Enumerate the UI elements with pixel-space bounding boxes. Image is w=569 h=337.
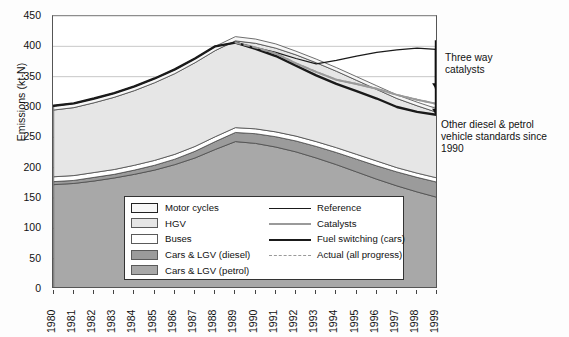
annotation-arrow-head-0 (432, 83, 437, 89)
legend-label: Cars & LGV (diesel) (165, 249, 250, 260)
x-tick-mark (113, 290, 114, 294)
legend-line-column: ReferenceCatalystsFuel switching (cars)A… (269, 200, 405, 262)
x-tick-label: 1987 (186, 310, 198, 333)
x-tick-label: 1986 (166, 310, 178, 333)
x-tick-label: 1998 (408, 310, 420, 333)
x-tick-mark (255, 290, 256, 294)
legend-line-sample (269, 208, 311, 209)
y-tick-label: 250 (0, 130, 46, 142)
legend-item-area[interactable]: Buses (131, 231, 250, 247)
legend-item-area[interactable]: Motor cycles (131, 200, 250, 216)
x-axis-ticks: 1980198119821983198419851986198719881989… (52, 290, 437, 337)
x-tick-label: 1985 (146, 310, 158, 333)
x-tick-label: 1997 (388, 310, 400, 333)
x-tick-label: 1991 (267, 310, 279, 333)
legend-swatch-icon (131, 203, 158, 213)
x-tick-mark (396, 290, 397, 294)
legend-label: Buses (165, 233, 192, 244)
legend-line-icon (269, 218, 311, 228)
x-tick-mark (133, 290, 134, 294)
x-tick-mark (376, 290, 377, 294)
x-tick-label: 1983 (105, 310, 117, 333)
x-tick-mark (356, 290, 357, 294)
y-tick-label: 50 (0, 252, 46, 264)
legend-line-icon (269, 234, 311, 244)
legend-swatch-icon (131, 265, 158, 275)
legend-label: Reference (317, 202, 361, 213)
legend-line-sample (269, 223, 311, 225)
x-tick-label: 1996 (368, 310, 380, 333)
x-tick-mark (174, 290, 175, 294)
legend-item-line[interactable]: Actual (all progress) (269, 247, 405, 263)
chart-figure: Emissions (kt-N) 05010015020025030035040… (0, 0, 569, 337)
x-tick-label: 1999 (428, 310, 440, 333)
x-tick-label: 1980 (45, 310, 57, 333)
legend-item-area[interactable]: Cars & LGV (diesel) (131, 247, 250, 263)
legend-item-area[interactable]: Cars & LGV (petrol) (131, 262, 250, 278)
x-tick-mark (295, 290, 296, 294)
annotation-three-way-catalysts: Three way catalysts (445, 52, 493, 76)
legend-line-sample (269, 239, 311, 241)
x-tick-label: 1994 (327, 310, 339, 333)
x-tick-mark (275, 290, 276, 294)
legend-swatch-icon (131, 234, 158, 244)
x-tick-mark (234, 290, 235, 294)
x-tick-label: 1982 (85, 310, 97, 333)
legend-label: HGV (165, 218, 186, 229)
x-tick-label: 1995 (348, 310, 360, 333)
x-tick-mark (53, 290, 54, 294)
x-tick-label: 1993 (307, 310, 319, 333)
legend-item-area[interactable]: HGV (131, 216, 250, 232)
legend-label: Actual (all progress) (317, 249, 402, 260)
x-tick-label: 1984 (125, 310, 137, 333)
x-tick-mark (194, 290, 195, 294)
legend-label: Cars & LGV (petrol) (165, 265, 249, 276)
y-tick-label: 350 (0, 70, 46, 82)
x-tick-label: 1981 (65, 310, 77, 333)
y-tick-label: 150 (0, 191, 46, 203)
y-tick-label: 450 (0, 9, 46, 21)
annotation-vehicle-standards: Other diesel & petrol vehicle standards … (441, 119, 547, 156)
y-tick-label: 0 (0, 282, 46, 294)
y-tick-label: 400 (0, 39, 46, 51)
legend-label: Fuel switching (cars) (317, 233, 405, 244)
x-tick-mark (436, 290, 437, 294)
x-tick-mark (416, 290, 417, 294)
chart-legend: Motor cyclesHGVBusesCars & LGV (diesel)C… (124, 196, 404, 280)
x-tick-mark (73, 290, 74, 294)
x-tick-label: 1988 (206, 310, 218, 333)
x-tick-label: 1989 (226, 310, 238, 333)
legend-label: Motor cycles (165, 202, 219, 213)
y-axis-ticks: 050100150200250300350400450 (0, 0, 46, 337)
legend-line-sample (269, 255, 311, 256)
legend-label: Catalysts (317, 218, 356, 229)
y-tick-label: 300 (0, 100, 46, 112)
y-tick-label: 200 (0, 161, 46, 173)
x-tick-label: 1990 (247, 310, 259, 333)
legend-swatch-icon (131, 218, 158, 228)
legend-item-line[interactable]: Fuel switching (cars) (269, 231, 405, 247)
x-tick-mark (315, 290, 316, 294)
legend-area-column: Motor cyclesHGVBusesCars & LGV (diesel)C… (131, 200, 250, 278)
y-tick-label: 100 (0, 221, 46, 233)
legend-item-line[interactable]: Reference (269, 200, 405, 216)
legend-swatch-icon (131, 250, 158, 260)
legend-line-icon (269, 250, 311, 260)
legend-item-line[interactable]: Catalysts (269, 216, 405, 232)
x-tick-mark (154, 290, 155, 294)
x-tick-mark (93, 290, 94, 294)
legend-line-icon (269, 203, 311, 213)
x-tick-mark (214, 290, 215, 294)
x-tick-label: 1992 (287, 310, 299, 333)
x-tick-mark (335, 290, 336, 294)
